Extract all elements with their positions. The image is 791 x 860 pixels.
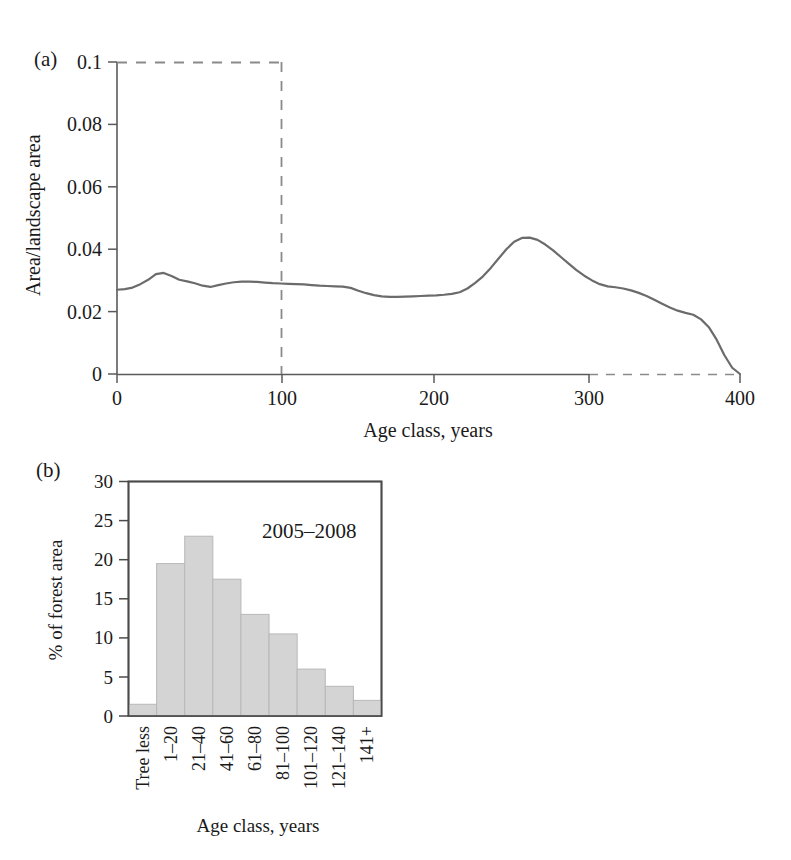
panel-a-x-tick-label: 100 [267,387,297,409]
panel-a-y-tick-label: 0.1 [77,51,102,73]
panel-b-bar [325,686,353,716]
panel-a-y-tick-label: 0.06 [67,176,102,198]
panel-a-y-axis-title: Area/landscape area [22,134,45,296]
panel-b-y-tick-label: 0 [104,706,114,727]
panel-a-y-tick-label: 0.04 [67,238,102,260]
panel-b-category-label: 61–80 [245,726,265,771]
panel-a-label: (a) [34,47,57,71]
panel-b-category-label: 121–140 [329,726,349,789]
panel-b-category-label: 101–120 [301,726,321,789]
panel-a-x-tick-label: 200 [419,387,449,409]
panel-b-y-tick-label: 25 [94,510,113,531]
panel-b-bar [353,700,381,716]
panel-b-category-label: 21–40 [189,726,209,771]
panel-a-x-tick-label: 0 [112,387,122,409]
two-panel-figure: (a) Area/landscape area 0.1 [0,0,791,860]
panel-b-period-annotation: 2005–2008 [262,519,357,543]
panel-b-bar [157,564,185,716]
panel-b-category-label: Tree less [133,726,153,790]
panel-a-y-tick-label: 0 [92,363,102,385]
panel-b-label: (b) [36,458,61,482]
panel-b-category-label: 81–100 [273,726,293,780]
panel-a-y-tick-label: 0.08 [67,113,102,135]
figure-root: (a) Area/landscape area 0.1 [0,0,791,860]
panel-b-bar [213,579,241,716]
panel-a-x-tick-label: 300 [574,387,604,409]
panel-b-bar [269,634,297,716]
panel-b-bar [129,704,157,716]
panel-b-bar [297,669,325,716]
panel-b-y-tick-label: 5 [104,667,114,688]
panel-b-y-tick-label: 15 [94,588,113,609]
panel-b-y-tick-label: 30 [94,471,113,492]
panel-b-category-label: 41–60 [217,726,237,771]
panel-b-y-axis-title: % of forest area [45,539,66,660]
panel-b-y-tick-label: 10 [94,627,113,648]
panel-b-category-label: 141+ [357,726,377,763]
panel-b-category-label: 1–20 [161,726,181,762]
panel-b-y-tick-label: 20 [94,549,113,570]
panel-b-bar [241,614,269,716]
panel-a-x-tick-label: 400 [725,387,755,409]
panel-b-bar [185,536,213,716]
panel-a-y-tick-label: 0.02 [67,301,102,323]
panel-a-x-axis-title: Age class, years [363,419,493,442]
panel-b-x-axis-title: Age class, years [197,815,320,836]
